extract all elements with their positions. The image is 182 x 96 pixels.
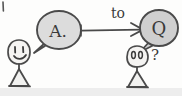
answer-bubble-label: A.	[48, 21, 67, 41]
bottom-band	[0, 88, 182, 96]
listener-head	[127, 46, 148, 67]
sketch-canvas: A. to Q	[0, 0, 182, 96]
sketch-svg: A. to Q	[0, 0, 182, 96]
question-bubble-label: Q	[152, 18, 167, 39]
question-mark-annotation: ?	[151, 46, 159, 64]
arrow-label: to	[111, 5, 125, 21]
arrow-shaft	[81, 30, 141, 31]
speaker-head	[8, 40, 30, 64]
